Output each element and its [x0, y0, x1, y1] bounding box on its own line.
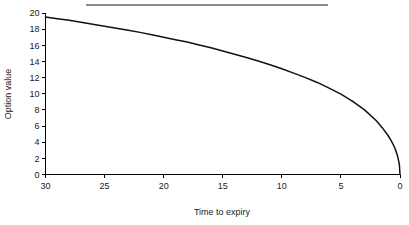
x-tick-label: 10 — [277, 181, 287, 191]
x-tick-label: 5 — [338, 181, 343, 191]
x-tick-label: 15 — [218, 181, 228, 191]
y-tick-label: 8 — [34, 105, 39, 115]
chart-background — [0, 0, 409, 225]
y-tick-label: 4 — [34, 137, 39, 147]
x-tick-label: 0 — [397, 181, 402, 191]
y-tick-label: 2 — [34, 154, 39, 164]
y-tick-label: 20 — [29, 8, 39, 18]
x-tick-label: 25 — [100, 181, 110, 191]
y-tick-label: 16 — [29, 41, 39, 51]
y-tick-label: 14 — [29, 57, 39, 67]
x-axis-title: Time to expiry — [194, 207, 251, 217]
y-tick-label: 10 — [29, 89, 39, 99]
x-tick-label: 30 — [40, 181, 50, 191]
x-tick-label: 20 — [159, 181, 169, 191]
y-tick-label: 18 — [29, 24, 39, 34]
option-value-decay-chart: 02468101214161820 302520151050 Time to e… — [0, 0, 409, 225]
chart-canvas: 02468101214161820 302520151050 Time to e… — [0, 0, 409, 225]
y-tick-label: 12 — [29, 73, 39, 83]
y-tick-label: 0 — [34, 170, 39, 180]
y-axis-title: Option value — [3, 69, 13, 120]
y-tick-label: 6 — [34, 121, 39, 131]
